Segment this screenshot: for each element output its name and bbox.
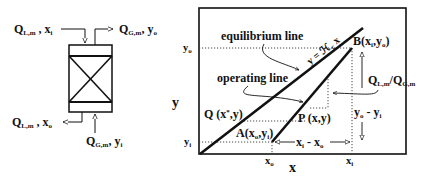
x-tick-xi: xi bbox=[346, 155, 353, 168]
point-a-label: A(xo,yi) bbox=[236, 126, 273, 141]
slope-pointer-arrow bbox=[333, 90, 378, 94]
x-tick-xo: xo bbox=[265, 155, 274, 168]
y-tick-yi: yi bbox=[184, 136, 191, 149]
liquid-outlet-arrow bbox=[63, 112, 82, 122]
gas-outlet-label: QG,m, yo bbox=[119, 22, 157, 37]
diagram-canvas: QL,m , xi QG,m, yo QL,m , xo QG,m, yi y … bbox=[0, 0, 425, 177]
liquid-inlet-label: QL,m , xi bbox=[14, 22, 53, 37]
y-axis-label: y bbox=[172, 95, 179, 110]
liquid-inlet-arrow bbox=[61, 29, 85, 43]
dy-label: yo - yi bbox=[354, 105, 382, 120]
point-b-label: B(xi,yo) bbox=[353, 34, 389, 49]
x-axis-label: x bbox=[289, 160, 296, 175]
dx-label: xi - xo bbox=[296, 135, 324, 150]
liquid-outlet-label: QL,m , xo bbox=[12, 115, 53, 130]
operating-line-label: operating line bbox=[217, 71, 289, 85]
absorption-column: QL,m , xi QG,m, yo QL,m , xo QG,m, yi bbox=[12, 22, 157, 149]
point-q-label: Q (x*,y) bbox=[204, 107, 243, 121]
point-p-label: P (x,y) bbox=[298, 111, 331, 125]
equilibrium-equation: y = ℋc x bbox=[304, 34, 343, 68]
equilibrium-line bbox=[200, 28, 363, 154]
equilibrium-line-label: equilibrium line bbox=[221, 29, 304, 43]
gas-inlet-label: QG,m, yi bbox=[86, 134, 122, 149]
gas-outlet-arrow bbox=[95, 29, 113, 45]
y-tick-yo: yo bbox=[183, 42, 192, 55]
operating-pointer-arrow bbox=[244, 86, 303, 102]
operating-diagram: y yo yi x xo xi equilibrium line y = ℋc … bbox=[172, 8, 415, 175]
slope-label: QL,m/QG,m bbox=[368, 73, 415, 88]
